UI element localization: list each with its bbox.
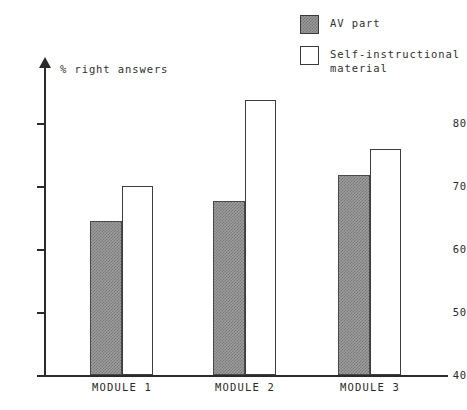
y-axis-line	[44, 66, 46, 376]
bar-self-instructional-module-3	[370, 149, 401, 375]
bar-self-instructional-module-1	[122, 186, 153, 375]
y-axis-title: % right answers	[60, 63, 168, 75]
x-tick-label-module-1: MODULE 1	[92, 381, 152, 393]
bar-chart: AV part Self-instructional material % ri…	[0, 0, 467, 410]
y-tick-mark-60	[37, 249, 46, 251]
y-tick-mark-80	[37, 123, 46, 125]
y-tick-label-50: 50	[433, 306, 467, 318]
x-tick-label-module-2: MODULE 2	[215, 381, 275, 393]
y-tick-label-60: 60	[433, 243, 467, 255]
y-tick-mark-50	[37, 312, 46, 314]
x-axis-line	[44, 375, 448, 377]
x-tick-label-module-3: MODULE 3	[340, 381, 400, 393]
y-tick-label-70: 70	[433, 180, 467, 192]
y-tick-mark-40	[37, 375, 46, 377]
bar-av-part-module-3	[338, 175, 370, 375]
y-tick-label-80: 80	[433, 117, 467, 129]
bar-av-part-module-1	[90, 221, 122, 375]
bar-av-part-module-2	[213, 201, 245, 375]
y-tick-label-40: 40	[433, 369, 467, 381]
y-tick-mark-70	[37, 186, 46, 188]
bar-self-instructional-module-2	[245, 100, 276, 375]
plot-area: % right answers 80 70 60 50 40 MODULE 1 …	[0, 0, 467, 410]
